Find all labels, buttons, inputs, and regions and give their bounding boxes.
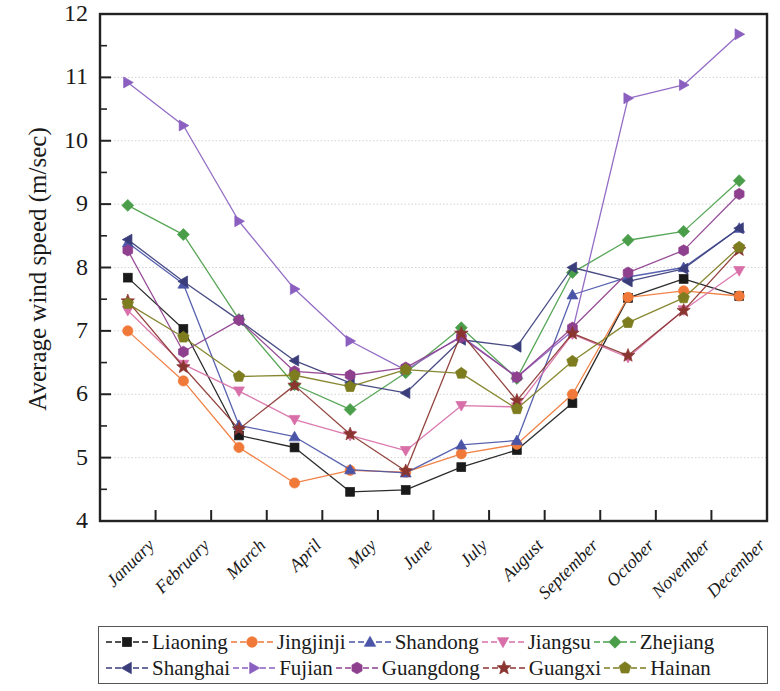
legend-glyph — [352, 662, 362, 674]
legend-glyph — [247, 637, 258, 648]
legend-marker-shanghai — [105, 658, 149, 678]
legend-marker-guangxi — [482, 658, 526, 678]
legend-item-zhejiang[interactable]: Zhejiang — [593, 632, 717, 653]
legend-label: Guangxi — [526, 658, 603, 679]
legend-marker-jiangsu — [481, 632, 525, 652]
chart-legend: LiaoningJingjinjiShandongJiangsuZhejiang… — [98, 626, 768, 684]
x-tick-label: December — [703, 535, 770, 602]
legend-marker-liaoning — [105, 632, 149, 652]
legend-item-fujian[interactable]: Fujian — [232, 658, 335, 679]
legend-marker-jingjinji — [230, 632, 274, 652]
legend-glyph — [250, 662, 260, 673]
legend-item-guangxi[interactable]: Guangxi — [482, 658, 603, 679]
x-tick-label: July — [456, 535, 492, 571]
legend-label: Fujian — [276, 658, 335, 679]
x-tick-label: February — [151, 535, 214, 598]
x-tick-label: June — [398, 535, 437, 574]
legend-label: Zhejiang — [637, 632, 717, 653]
legend-label: Shanghai — [149, 658, 232, 679]
x-axis-tick-labels: JanuaryFebruaryMarchAprilMayJuneJulyAugu… — [0, 0, 780, 691]
legend-marker-guangdong — [335, 658, 379, 678]
legend-marker-zhejiang — [593, 632, 637, 652]
legend-label: Jingjinji — [274, 632, 348, 653]
legend-item-jiangsu[interactable]: Jiangsu — [481, 632, 593, 653]
legend-row-top: LiaoningJingjinjiShandongJiangsuZhejiang — [105, 629, 761, 655]
x-tick-label: May — [344, 535, 381, 572]
legend-glyph — [619, 662, 631, 673]
x-tick-label: September — [535, 535, 604, 604]
x-tick-label: March — [222, 535, 270, 583]
legend-label: Liaoning — [149, 632, 230, 653]
legend-label: Guangdong — [379, 658, 482, 679]
legend-label: Jiangsu — [525, 632, 593, 653]
legend-item-shanghai[interactable]: Shanghai — [105, 658, 232, 679]
legend-glyph — [122, 637, 131, 646]
legend-glyph — [497, 661, 511, 674]
legend-row-bottom: ShanghaiFujianGuangdongGuangxiHainan — [105, 655, 761, 681]
legend-item-hainan[interactable]: Hainan — [603, 658, 713, 679]
legend-glyph — [608, 636, 620, 648]
x-tick-label: November — [647, 535, 714, 602]
x-tick-label: April — [284, 535, 325, 576]
legend-marker-fujian — [232, 658, 276, 678]
legend-label: Shandong — [392, 632, 481, 653]
legend-marker-shandong — [348, 632, 392, 652]
legend-item-guangdong[interactable]: Guangdong — [335, 658, 482, 679]
legend-glyph — [364, 636, 375, 646]
legend-item-jingjinji[interactable]: Jingjinji — [230, 632, 348, 653]
wind-speed-line-chart: Average wind speed (m/sec) 456789101112 … — [0, 0, 780, 691]
legend-item-liaoning[interactable]: Liaoning — [105, 632, 230, 653]
x-tick-label: August — [498, 535, 548, 585]
legend-label: Hainan — [647, 658, 713, 679]
legend-marker-hainan — [603, 658, 647, 678]
legend-glyph — [121, 662, 131, 673]
legend-glyph — [497, 638, 508, 648]
legend-item-shandong[interactable]: Shandong — [348, 632, 481, 653]
